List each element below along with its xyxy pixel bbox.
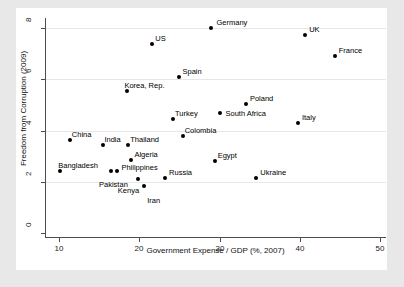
y-tick-6 — [41, 79, 45, 80]
data-point-label: Russia — [169, 168, 192, 177]
data-point-label: Algeria — [134, 150, 157, 159]
y-tick-4 — [41, 131, 45, 132]
data-point-label: Thailand — [130, 135, 159, 144]
data-point-label: Poland — [250, 94, 273, 103]
data-point — [244, 102, 248, 106]
data-point-label: South Africa — [226, 109, 266, 118]
data-point — [163, 176, 167, 180]
scatter-plot-figure: 02468 1020304050 GermanyUKUSFranceSpainK… — [0, 0, 404, 287]
x-tick-30 — [220, 238, 221, 242]
data-point — [109, 169, 113, 173]
data-point — [333, 54, 337, 58]
data-point-label: India — [104, 135, 120, 144]
data-point-label: Colombia — [185, 126, 217, 135]
y-tick-8 — [41, 28, 45, 29]
data-point — [296, 121, 300, 125]
data-point — [213, 159, 217, 163]
data-point — [142, 184, 146, 188]
data-point-label: Turkey — [175, 109, 198, 118]
data-point-label: Korea, Rep. — [124, 81, 164, 90]
data-point-label: Germany — [216, 18, 247, 27]
gridline-y-2 — [46, 182, 386, 183]
x-tick-50 — [380, 238, 381, 242]
data-point-label: Spain — [182, 67, 201, 76]
gridline-y-6 — [46, 79, 386, 80]
y-axis-title: Freedom from Corruption (2009) — [19, 9, 28, 209]
data-point — [136, 177, 140, 181]
data-point — [209, 26, 213, 30]
gridline-y-8 — [46, 28, 386, 29]
data-point-label: Italy — [302, 113, 316, 122]
data-point — [129, 158, 133, 162]
data-point-label: China — [72, 130, 92, 139]
x-tick-40 — [300, 238, 301, 242]
x-axis-title: Government Expense / GDP (%, 2007) — [45, 246, 386, 255]
x-tick-20 — [139, 238, 140, 242]
data-point-label: Egypt — [218, 151, 237, 160]
y-tick-0 — [41, 233, 45, 234]
data-point — [254, 176, 258, 180]
data-point-label: Iran — [147, 196, 160, 205]
data-point — [303, 33, 307, 37]
data-point-label: Kenya — [118, 186, 139, 195]
y-tick-2 — [41, 182, 45, 183]
y-tick-label-0: 0 — [24, 223, 33, 243]
data-point — [115, 169, 119, 173]
plot-area: 02468 1020304050 GermanyUKUSFranceSpainK… — [45, 18, 386, 238]
data-point-label: Philippines — [121, 163, 157, 172]
data-point — [218, 111, 222, 115]
x-axis-line — [45, 237, 386, 238]
data-point — [150, 42, 154, 46]
data-point-label: France — [339, 46, 362, 55]
data-point-label: Ukraine — [260, 168, 286, 177]
data-point-label: US — [155, 34, 165, 43]
data-point-label: Bangladesh — [58, 161, 98, 170]
x-tick-10 — [59, 238, 60, 242]
y-axis-line — [45, 18, 46, 238]
data-point-label: UK — [309, 25, 319, 34]
